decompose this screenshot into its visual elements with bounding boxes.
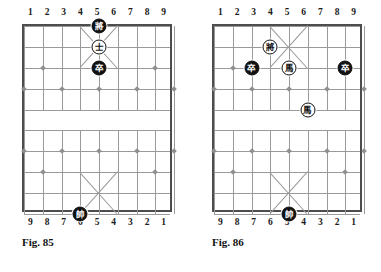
star-point: [286, 86, 292, 92]
file-label-bottom-4: 4: [295, 215, 312, 229]
file-label-top-4: 4: [262, 5, 279, 19]
file-label-top-9: 9: [155, 5, 172, 19]
file-label-bottom-3: 3: [312, 215, 329, 229]
grid-hline: [24, 130, 170, 131]
star-point: [21, 86, 27, 92]
figure-86: 123456789將卒馬卒馬帥987654321Fig. 86: [190, 0, 380, 272]
board-grid: [214, 26, 360, 210]
file-label-top-2: 2: [229, 5, 246, 19]
bottom-file-labels: 987654321: [22, 215, 172, 229]
star-point: [40, 169, 46, 175]
star-point: [171, 148, 177, 154]
piece-black-pawn[interactable]: 卒: [92, 60, 107, 75]
file-label-bottom-2: 2: [329, 215, 346, 229]
file-label-top-5: 5: [279, 5, 296, 19]
file-label-bottom-2: 2: [139, 215, 156, 229]
file-label-bottom-3: 3: [122, 215, 139, 229]
figure-page: 123456789將士卒帥987654321Fig. 85 123456789將…: [0, 0, 381, 272]
file-label-top-1: 1: [22, 5, 39, 19]
grid-hline: [214, 110, 360, 111]
grid-vline: [174, 26, 175, 214]
star-point: [134, 86, 140, 92]
piece-black-pawn-left[interactable]: 卒: [244, 60, 259, 75]
grid-hline: [24, 172, 170, 173]
grid-hline: [214, 130, 360, 131]
star-point: [324, 86, 330, 92]
star-point: [249, 148, 255, 154]
file-label-bottom-9: 9: [212, 215, 229, 229]
figure-85: 123456789將士卒帥987654321Fig. 85: [0, 0, 190, 272]
star-point: [171, 86, 177, 92]
figure-caption: Fig. 86: [212, 236, 244, 248]
star-point: [59, 148, 65, 154]
file-label-bottom-4: 4: [105, 215, 122, 229]
piece-white-advisor[interactable]: 士: [92, 39, 107, 54]
star-point: [211, 148, 217, 154]
file-label-bottom-5: 5: [89, 215, 106, 229]
file-label-bottom-8: 8: [39, 215, 56, 229]
star-point: [324, 148, 330, 154]
star-point: [152, 65, 158, 71]
file-label-top-6: 6: [295, 5, 312, 19]
file-label-top-8: 8: [329, 5, 346, 19]
star-point: [96, 148, 102, 154]
star-point: [40, 65, 46, 71]
star-point: [230, 65, 236, 71]
piece-white-marshal[interactable]: 帥: [73, 207, 88, 222]
star-point: [152, 169, 158, 175]
star-point: [230, 169, 236, 175]
file-label-top-8: 8: [139, 5, 156, 19]
xiangqi-board: 將卒馬卒馬帥: [212, 24, 362, 212]
file-label-top-2: 2: [39, 5, 56, 19]
grid-vline: [214, 26, 215, 214]
file-label-bottom-8: 8: [229, 215, 246, 229]
grid-hline: [214, 26, 360, 27]
star-point: [342, 169, 348, 175]
file-label-top-3: 3: [245, 5, 262, 19]
piece-white-marshal[interactable]: 帥: [282, 207, 297, 222]
file-label-top-5: 5: [89, 5, 106, 19]
file-label-top-3: 3: [55, 5, 72, 19]
star-point: [21, 148, 27, 154]
file-label-top-7: 7: [312, 5, 329, 19]
star-point: [361, 148, 367, 154]
star-point: [211, 86, 217, 92]
grid-hline: [214, 172, 360, 173]
top-file-labels: 123456789: [212, 5, 362, 19]
file-label-bottom-1: 1: [345, 215, 362, 229]
grid-hline: [24, 110, 170, 111]
grid-vline: [24, 26, 25, 214]
star-point: [59, 86, 65, 92]
file-label-top-6: 6: [105, 5, 122, 19]
file-label-bottom-1: 1: [155, 215, 172, 229]
star-point: [134, 148, 140, 154]
file-label-top-4: 4: [72, 5, 89, 19]
piece-white-horse-lower[interactable]: 馬: [300, 102, 315, 117]
file-label-bottom-7: 7: [245, 215, 262, 229]
piece-white-horse-upper[interactable]: 馬: [282, 60, 297, 75]
piece-black-pawn-right[interactable]: 卒: [338, 60, 353, 75]
file-label-bottom-6: 6: [262, 215, 279, 229]
top-file-labels: 123456789: [22, 5, 172, 19]
xiangqi-board: 將士卒帥: [22, 24, 172, 212]
grid-vline: [364, 26, 365, 214]
figure-caption: Fig. 85: [22, 236, 54, 248]
star-point: [286, 148, 292, 154]
star-point: [361, 86, 367, 92]
file-label-bottom-7: 7: [55, 215, 72, 229]
piece-black-general[interactable]: 將: [92, 19, 107, 34]
star-point: [249, 86, 255, 92]
star-point: [96, 86, 102, 92]
piece-black-general[interactable]: 將: [263, 39, 278, 54]
file-label-top-9: 9: [345, 5, 362, 19]
file-label-top-7: 7: [122, 5, 139, 19]
file-label-bottom-9: 9: [22, 215, 39, 229]
file-label-top-1: 1: [212, 5, 229, 19]
